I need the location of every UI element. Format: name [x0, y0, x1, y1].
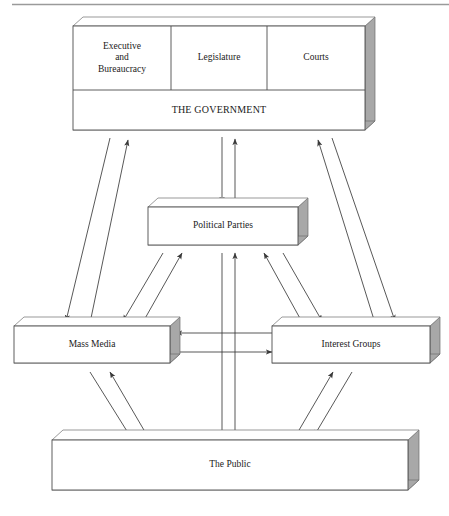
political-system-diagram: [0, 0, 449, 516]
arrow-government-to-interest-groups: [332, 138, 395, 321]
arrow-interest-groups-to-public: [314, 372, 352, 436]
arrow-government-to-mass-media: [66, 138, 110, 321]
arrow-public-to-interest-groups: [295, 372, 333, 437]
interest-groups-top-bevel: [272, 317, 440, 326]
diagram-page: Executive and Bureaucracy Legislature Co…: [0, 0, 449, 516]
mass-media-top-bevel: [14, 317, 180, 326]
arrow-mass-media-to-government: [90, 140, 128, 323]
the-public-box[interactable]: [52, 430, 419, 490]
arrow-mass-media-to-public: [90, 372, 130, 436]
government-face: [73, 26, 365, 130]
government-top-bevel: [73, 17, 375, 26]
arrow-parties-to-interest-groups: [283, 253, 322, 321]
political-parties-box[interactable]: [148, 198, 308, 245]
interest-groups-box[interactable]: [272, 317, 440, 363]
government-box[interactable]: [73, 17, 375, 130]
parties-face: [148, 207, 298, 245]
arrow-parties-to-mass-media: [123, 253, 163, 321]
parties-top-bevel: [148, 198, 308, 207]
public-top-bevel: [52, 430, 419, 440]
arrow-interest-groups-to-parties: [264, 253, 302, 322]
mass-media-face: [14, 326, 170, 363]
government-side-shadow: [365, 17, 375, 130]
connector-layer: [66, 137, 395, 438]
arrow-public-to-mass-media: [110, 372, 148, 437]
public-face: [52, 440, 408, 490]
mass-media-box[interactable]: [14, 317, 180, 363]
interest-groups-face: [272, 326, 430, 363]
arrow-interest-groups-to-government: [318, 140, 375, 323]
arrow-mass-media-to-parties: [143, 253, 182, 322]
